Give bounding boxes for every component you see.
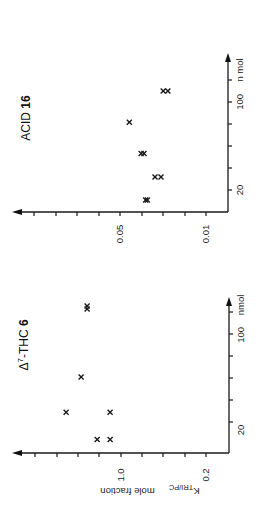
x-tick-label: 20 <box>234 185 245 196</box>
title-delta: Δ <box>17 363 31 371</box>
data-point <box>142 151 147 156</box>
x-tick-label: 100 <box>235 327 246 343</box>
y-axis-arrow-icon <box>12 450 22 456</box>
figure: 20100nmol0.21.0KTRI/PCmole fractionΔ7-TH… <box>0 0 262 522</box>
y-tick-label: 0.05 <box>114 225 125 244</box>
x-unit-label: nmol <box>235 295 246 316</box>
data-point <box>85 304 90 309</box>
y-axis-label: KTRI/PCmole fraction <box>100 483 199 497</box>
y-tick-label: 1.0 <box>115 468 126 481</box>
title-compound-number: 6 <box>17 319 31 326</box>
x-axis-arrow-icon <box>225 53 231 62</box>
chart-title: Δ7-THC 6 <box>16 319 31 370</box>
data-point <box>127 120 132 125</box>
y-axis-label-subscript: TRI/PC <box>168 483 193 492</box>
title-text: -THC <box>17 326 31 358</box>
data-point <box>64 410 69 415</box>
y-tick-label: 0.2 <box>200 468 211 481</box>
y-tick-label: 0.01 <box>200 225 211 244</box>
chart-title: ACID 16 <box>19 95 33 141</box>
x-axis-arrow-icon <box>226 297 232 306</box>
data-point <box>108 410 113 415</box>
data-point <box>79 375 84 380</box>
y-axis-arrow-icon <box>12 209 22 215</box>
chart-delta7-thc: 20100nmol0.21.0KTRI/PCmole fractionΔ7-TH… <box>12 295 246 497</box>
data-point <box>161 89 166 94</box>
data-point <box>153 174 158 179</box>
x-tick-label: 100 <box>234 94 245 110</box>
data-point <box>95 437 100 442</box>
title-text: ACID <box>19 109 33 141</box>
data-point <box>165 89 170 94</box>
chart-acid: 20100n mol0.010.05ACID 16 <box>12 53 245 243</box>
title-compound-number: 16 <box>19 95 33 109</box>
x-tick-label: 20 <box>235 425 246 436</box>
x-unit-label: n mol <box>234 58 245 81</box>
data-point <box>108 437 113 442</box>
y-axis-label-rest: mole fraction <box>100 486 154 497</box>
data-point <box>159 174 164 179</box>
